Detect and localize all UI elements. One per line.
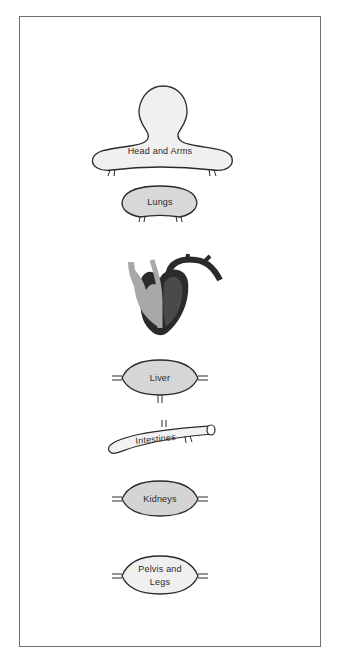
pelvis-legs-label-line2: Legs <box>150 577 171 587</box>
heart-organ <box>128 254 220 335</box>
kidneys-organ: Kidneys <box>112 481 208 516</box>
pelvis-legs-label-line1: Pelvis and <box>138 564 182 574</box>
head-arms-label: Head and Arms <box>128 146 193 156</box>
intestines-organ: Intestines <box>108 420 215 453</box>
kidneys-label: Kidneys <box>143 494 177 504</box>
liver-label: Liver <box>150 373 171 383</box>
head-arms-organ: Head and Arms <box>92 86 232 176</box>
pelvis-legs-organ: Pelvis and Legs <box>112 556 208 594</box>
liver-organ: Liver <box>112 360 208 403</box>
circulatory-diagram: Head and Arms Lungs Liver Intestines <box>0 0 337 665</box>
lungs-organ: Lungs <box>122 186 197 222</box>
lungs-label: Lungs <box>147 197 173 207</box>
